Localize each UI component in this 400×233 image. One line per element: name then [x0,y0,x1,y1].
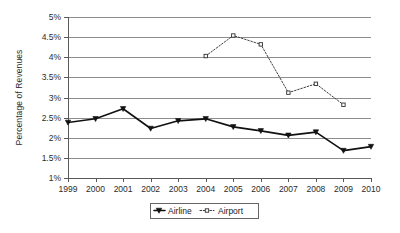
gridlines-group [68,18,371,179]
x-tick-labels: 1999200020012002200320042005200620072008… [59,184,381,194]
y-tick-label-4.5: 4.5% [42,32,62,42]
y-tick-label-3.5: 3.5% [42,72,62,82]
chart-container: 5%4.5%4%3.5%3%2.5%2%1.5%1%19992000200120… [0,0,400,233]
data-point-airport-2008 [314,82,317,85]
axes-group [64,17,372,182]
legend: AirlineAirport [151,204,259,219]
y-tick-label-2: 2% [49,133,62,143]
series-line-airport [206,36,344,105]
y-tick-label-3: 3% [49,93,62,103]
x-tick-label-2002: 2002 [141,184,160,194]
x-tick-label-2009: 2009 [334,184,353,194]
x-tick-label-2000: 2000 [86,184,105,194]
x-tick-label-2001: 2001 [114,184,133,194]
x-tick-label-2006: 2006 [251,184,270,194]
legend-label-airline: Airline [168,206,192,216]
y-tick-label-1: 1% [49,173,62,183]
legend-marker-airport [205,209,208,212]
series-airline [65,106,373,153]
y-axis-title: Percentage of Revenues [14,50,24,146]
data-point-airport-2007 [287,91,290,94]
y-tick-label-2.5: 2.5% [42,113,62,123]
data-point-airport-2004 [204,54,207,57]
x-tick-label-2010: 2010 [362,184,381,194]
x-tick-label-2003: 2003 [169,184,188,194]
y-tick-labels: 5%4.5%4%3.5%3%2.5%2%1.5%1% [42,12,62,183]
y-tick-label-5: 5% [49,12,62,22]
series-line-airline [68,109,371,151]
x-tick-label-2008: 2008 [306,184,325,194]
data-point-airport-2009 [342,103,345,106]
y-tick-label-1.5: 1.5% [42,153,62,163]
x-tick-label-2007: 2007 [279,184,298,194]
data-point-airport-2005 [232,34,235,37]
y-tick-label-4: 4% [49,52,62,62]
x-tick-label-2004: 2004 [196,184,215,194]
x-tick-label-2005: 2005 [224,184,243,194]
line-chart: 5%4.5%4%3.5%3%2.5%2%1.5%1%19992000200120… [0,0,400,233]
series-airport [204,34,345,107]
data-point-airport-2006 [259,43,262,46]
legend-label-airport: Airport [218,206,244,216]
x-tick-label-1999: 1999 [59,184,78,194]
